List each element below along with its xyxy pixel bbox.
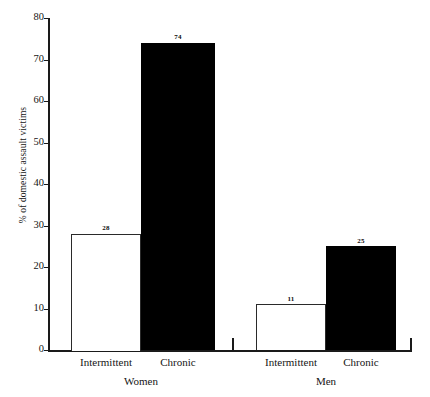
y-tick-label-70: 70 [16, 53, 44, 64]
y-tick-60 [44, 101, 50, 102]
category-label-women-chronic: Chronic [140, 356, 216, 368]
x-axis-end-tick [410, 338, 412, 352]
y-tick-30 [44, 226, 50, 227]
bar-women-intermittent [71, 234, 141, 351]
bar-women-chronic [141, 43, 215, 350]
bar-men-intermittent [256, 304, 326, 350]
group-label-women: Women [91, 375, 191, 387]
y-tick-label-30: 30 [16, 219, 44, 230]
y-tick-label-60: 60 [16, 94, 44, 105]
y-tick-50 [44, 143, 50, 144]
x-axis-men [233, 350, 412, 352]
y-tick-label-40: 40 [16, 177, 44, 188]
bar-value-men-intermittent: 11 [256, 295, 326, 303]
y-tick-label-80: 80 [16, 11, 44, 22]
category-label-men-chronic: Chronic [323, 356, 399, 368]
bar-value-women-chronic: 74 [141, 33, 215, 41]
x-axis-divider-tick [232, 338, 234, 352]
bar-value-men-chronic: 25 [326, 237, 396, 245]
bar-value-women-intermittent: 28 [71, 224, 141, 232]
y-tick-70 [44, 60, 50, 61]
y-tick-10 [44, 309, 50, 310]
y-tick-20 [44, 267, 50, 268]
bar-men-chronic [326, 246, 396, 350]
y-tick-label-10: 10 [16, 302, 44, 313]
y-tick-label-50: 50 [16, 136, 44, 147]
y-tick-label-0: 0 [16, 343, 44, 354]
y-tick-40 [44, 184, 50, 185]
group-label-men: Men [276, 375, 376, 387]
y-tick-80 [44, 18, 50, 19]
y-tick-label-20: 20 [16, 260, 44, 271]
bar-chart: % of domestic assault victims 80 70 60 5… [0, 0, 430, 397]
